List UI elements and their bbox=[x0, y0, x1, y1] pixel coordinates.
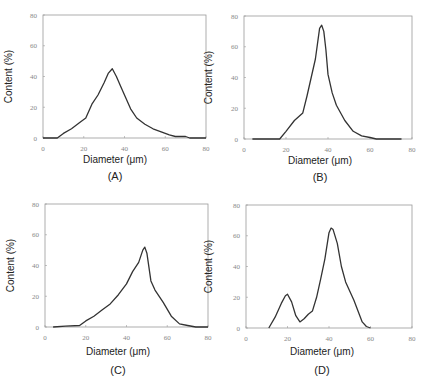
y-axis-label: Content (%) bbox=[203, 240, 214, 293]
x-tick-label: 80 bbox=[205, 334, 213, 342]
y-tick-label: 40 bbox=[30, 73, 38, 81]
y-tick-label: 60 bbox=[32, 231, 40, 239]
y-axis-label: Content (%) bbox=[5, 239, 16, 292]
y-tick-label: 0 bbox=[34, 135, 38, 143]
y-tick-label: 60 bbox=[30, 42, 38, 50]
y-tick-label: 60 bbox=[233, 232, 241, 240]
x-axis-label: Diameter (μm) bbox=[86, 346, 150, 357]
y-tick-label: 80 bbox=[32, 201, 40, 209]
x-axis-label: Diameter (μm) bbox=[83, 154, 147, 165]
chart-panel-c: 020406080020406080Diameter (μm)Content (… bbox=[5, 201, 212, 377]
y-tick-label: 60 bbox=[231, 43, 239, 51]
y-tick-label: 20 bbox=[231, 105, 239, 113]
y-tick-label: 0 bbox=[36, 324, 40, 332]
y-tick-label: 0 bbox=[237, 325, 241, 333]
y-tick-label: 20 bbox=[30, 104, 38, 112]
panel-label: (B) bbox=[313, 171, 328, 183]
panel-label: (C) bbox=[110, 364, 125, 376]
x-tick-label: 20 bbox=[80, 145, 88, 153]
x-tick-label: 0 bbox=[244, 335, 248, 343]
y-tick-label: 20 bbox=[233, 294, 241, 302]
y-tick-label: 0 bbox=[235, 136, 239, 144]
distribution-line bbox=[269, 228, 371, 328]
x-tick-label: 80 bbox=[409, 335, 417, 343]
y-axis-label: Content (%) bbox=[203, 51, 214, 104]
x-tick-label: 0 bbox=[43, 334, 47, 342]
x-tick-label: 0 bbox=[242, 146, 246, 154]
x-tick-label: 20 bbox=[82, 334, 90, 342]
chart-panel-a: 020406080020406080Diameter (μm)Content (… bbox=[3, 12, 210, 183]
x-tick-label: 0 bbox=[41, 145, 45, 153]
x-tick-label: 60 bbox=[367, 335, 375, 343]
x-tick-label: 60 bbox=[367, 146, 375, 154]
y-tick-label: 80 bbox=[231, 13, 239, 21]
figure: 020406080020406080Diameter (μm)Content (… bbox=[0, 0, 423, 388]
y-tick-label: 80 bbox=[233, 202, 241, 210]
chart-panel-d: 020406080020406080Diameter (μm)Content (… bbox=[203, 202, 416, 377]
x-tick-label: 40 bbox=[121, 145, 129, 153]
x-tick-label: 60 bbox=[162, 145, 170, 153]
x-tick-label: 20 bbox=[283, 146, 291, 154]
panel-label: (A) bbox=[108, 170, 123, 182]
x-axis-label: Diameter (μm) bbox=[288, 155, 352, 166]
x-axis-label: Diameter (μm) bbox=[290, 346, 354, 357]
distribution-line bbox=[43, 69, 206, 138]
y-tick-label: 40 bbox=[231, 74, 239, 82]
x-tick-label: 40 bbox=[123, 334, 131, 342]
plot-frame bbox=[244, 16, 412, 139]
plot-frame bbox=[43, 15, 206, 138]
x-tick-label: 20 bbox=[284, 335, 292, 343]
y-tick-label: 40 bbox=[32, 262, 40, 270]
panel-label: (D) bbox=[314, 364, 329, 376]
y-axis-label: Content (%) bbox=[3, 50, 14, 103]
distribution-line bbox=[252, 25, 401, 139]
plot-frame bbox=[45, 204, 208, 327]
x-tick-label: 80 bbox=[203, 145, 211, 153]
plot-frame bbox=[246, 205, 412, 328]
distribution-line bbox=[53, 247, 208, 327]
x-tick-label: 40 bbox=[325, 146, 333, 154]
x-tick-label: 40 bbox=[326, 335, 334, 343]
x-tick-label: 60 bbox=[164, 334, 172, 342]
chart-panel-b: 020406080020406080Diameter (μm)Content (… bbox=[203, 13, 416, 184]
y-tick-label: 40 bbox=[233, 263, 241, 271]
y-tick-label: 80 bbox=[30, 12, 38, 20]
x-tick-label: 80 bbox=[409, 146, 417, 154]
y-tick-label: 20 bbox=[32, 293, 40, 301]
